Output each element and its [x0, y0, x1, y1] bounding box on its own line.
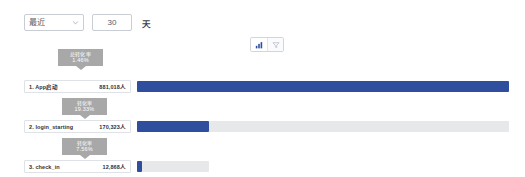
funnel-bar-fill-3[interactable]	[137, 161, 142, 172]
view-mode-funnel-button[interactable]	[267, 38, 283, 51]
funnel-step-label-2: 2. login_starting 170,323人	[24, 120, 131, 133]
conversion-badge-2: 转化率 7.56%	[62, 138, 107, 155]
conversion-badge-wrap-2: 转化率 7.56%	[62, 138, 107, 155]
funnel-bar-track-3	[137, 161, 209, 172]
funnel-chart-icon	[272, 41, 280, 49]
total-conversion-badge: 总转化率 1.46%	[58, 49, 103, 66]
funnel-step-label-3: 3. check_in 12,868人	[24, 160, 131, 173]
funnel-step-row-3[interactable]: 3. check_in 12,868人	[24, 160, 131, 173]
range-select-value: 最近	[29, 19, 45, 27]
funnel-bar-row-3	[137, 161, 209, 172]
funnel-step-row-2[interactable]: 2. login_starting 170,323人	[24, 120, 131, 133]
conversion-badge-1: 转化率 19.33%	[62, 98, 107, 115]
funnel-step-name-1: 1. App启动	[29, 83, 58, 91]
view-mode-bar-button[interactable]	[251, 38, 267, 51]
funnel-step-name-3: 3. check_in	[29, 164, 60, 170]
funnel-step-value-1: 881,018人	[99, 83, 126, 91]
bar-chart-icon	[255, 41, 263, 49]
funnel-step-label-1: 1. App启动 881,018人	[24, 80, 131, 93]
total-conversion-badge-wrap: 总转化率 1.46%	[58, 49, 103, 66]
view-mode-toggle	[250, 37, 284, 52]
funnel-step-value-2: 170,323人	[99, 123, 126, 131]
funnel-bar-row-2	[137, 121, 509, 132]
range-select[interactable]: 最近	[24, 14, 84, 31]
days-input[interactable]	[92, 14, 132, 31]
conversion-badge-wrap-1: 转化率 19.33%	[62, 98, 107, 115]
conversion-value-2: 7.56%	[62, 146, 107, 153]
total-conversion-value: 1.46%	[58, 57, 103, 64]
filter-toolbar: 最近 天	[24, 14, 151, 31]
chevron-down-icon	[72, 19, 79, 26]
funnel-bar-row-1	[137, 81, 509, 92]
conversion-value-1: 19.33%	[62, 106, 107, 113]
funnel-step-row-1[interactable]: 1. App启动 881,018人	[24, 80, 131, 93]
funnel-bar-fill-2[interactable]	[137, 121, 209, 132]
funnel-step-value-3: 12,868人	[102, 163, 126, 171]
funnel-step-name-2: 2. login_starting	[29, 124, 73, 130]
days-unit-label: 天	[142, 17, 151, 29]
funnel-bar-fill-1[interactable]	[137, 81, 509, 92]
